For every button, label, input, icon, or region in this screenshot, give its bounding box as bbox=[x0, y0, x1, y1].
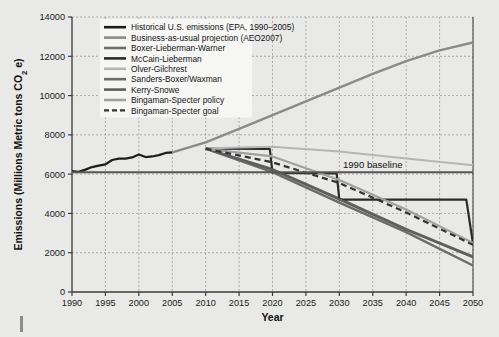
baseline-annotation: 1990 baseline bbox=[343, 159, 403, 170]
y-tick-label: 6000 bbox=[45, 170, 65, 180]
legend-label: Kerry-Snowe bbox=[131, 85, 180, 95]
x-tick-label: 2000 bbox=[129, 298, 149, 308]
legend-label: Olver-Gilchrest bbox=[131, 64, 188, 74]
x-tick-label: 1995 bbox=[95, 298, 115, 308]
legend-label: Bingaman-Specter goal bbox=[131, 106, 219, 116]
y-tick-label: 8000 bbox=[45, 130, 65, 140]
x-tick-label: 2010 bbox=[195, 298, 215, 308]
emissions-chart-figure: 0200040006000800010000120001400019901995… bbox=[0, 0, 499, 337]
x-tick-label: 2035 bbox=[363, 298, 383, 308]
x-axis-title: Year bbox=[261, 311, 283, 323]
legend-label: Business-as-usual projection (AEO2007) bbox=[131, 33, 283, 43]
x-tick-label: 2030 bbox=[329, 298, 349, 308]
legend-label: McCain-Lieberman bbox=[131, 54, 202, 64]
x-tick-label: 2025 bbox=[296, 298, 316, 308]
x-tick-label: 2040 bbox=[396, 298, 416, 308]
legend-label: Historical U.S. emissions (EPA, 1990–200… bbox=[131, 22, 294, 32]
x-tick-label: 2015 bbox=[229, 298, 249, 308]
y-tick-label: 14000 bbox=[39, 12, 65, 22]
x-tick-label: 1990 bbox=[62, 298, 82, 308]
legend-label: Bingaman-Specter policy bbox=[131, 95, 225, 105]
y-tick-label: 2000 bbox=[45, 248, 65, 258]
x-tick-label: 2020 bbox=[262, 298, 282, 308]
y-tick-label: 12000 bbox=[39, 52, 65, 62]
legend-label: Sanders-Boxer/Waxman bbox=[131, 74, 222, 84]
x-tick-label: 2005 bbox=[162, 298, 182, 308]
y-tick-label: 0 bbox=[60, 287, 65, 297]
legend-label: Boxer-Lieberman-Warner bbox=[131, 43, 225, 53]
annotations: 1990 baseline bbox=[343, 159, 403, 170]
x-tick-label: 2050 bbox=[463, 298, 483, 308]
y-tick-label: 4000 bbox=[45, 209, 65, 219]
emissions-line-chart: 0200040006000800010000120001400019901995… bbox=[0, 0, 499, 337]
page-edge-marker bbox=[20, 316, 23, 332]
x-tick-label: 2045 bbox=[429, 298, 449, 308]
y-tick-label: 10000 bbox=[39, 91, 65, 101]
